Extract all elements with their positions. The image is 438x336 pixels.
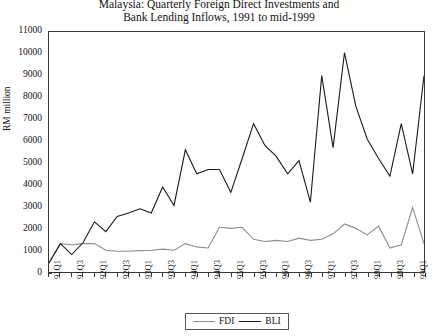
- legend-swatch-bli-icon: [239, 321, 261, 322]
- x-axis-tick-mark: [334, 273, 335, 277]
- x-axis-tick-mark: [82, 273, 83, 277]
- x-axis-tick-mark: [265, 273, 266, 277]
- chart-figure: Malaysia: Quarterly Foreign Direct Inves…: [0, 0, 438, 336]
- y-axis-tick-label: 1000: [0, 246, 42, 255]
- legend-label-fdi: FDI: [219, 316, 234, 326]
- x-axis-tick-mark: [208, 273, 209, 277]
- chart-title: Malaysia: Quarterly Foreign Direct Inves…: [0, 0, 438, 24]
- y-axis-tick-label: 4000: [0, 180, 42, 189]
- x-axis-tick-mark: [254, 273, 255, 277]
- legend-label-bli: BLI: [265, 316, 280, 326]
- y-axis-tick-label: 8000: [0, 92, 42, 101]
- y-axis-tick-label: 6000: [0, 136, 42, 145]
- x-axis-tick-mark: [242, 273, 243, 277]
- x-axis-tick-mark: [128, 273, 129, 277]
- x-axis-tick-mark: [414, 273, 415, 277]
- y-axis-tick-label: 11000: [0, 26, 42, 35]
- legend-item-bli[interactable]: BLI: [239, 316, 280, 326]
- x-axis-tick-mark: [231, 273, 232, 277]
- x-axis-tick-mark: [368, 273, 369, 277]
- legend-item-fdi[interactable]: FDI: [193, 316, 234, 326]
- chart-title-line-2: Bank Lending Inflows, 1991 to mid-1999: [0, 11, 438, 24]
- x-axis-tick-mark: [299, 273, 300, 277]
- x-axis-tick-mark: [71, 273, 72, 277]
- x-axis-tick-mark: [59, 273, 60, 277]
- y-axis-tick-label: 5000: [0, 158, 42, 167]
- y-axis-tick-label: 0: [0, 268, 42, 277]
- x-axis-tick-mark: [48, 273, 49, 277]
- x-axis-tick-mark: [185, 273, 186, 277]
- series-canvas: [49, 32, 424, 272]
- x-axis-tick-mark: [174, 273, 175, 277]
- series-line-fdi: [49, 208, 424, 263]
- x-axis-tick-mark: [322, 273, 323, 277]
- x-axis-tick-mark: [139, 273, 140, 277]
- x-axis-tick-mark: [402, 273, 403, 277]
- x-axis-tick-mark: [425, 273, 426, 277]
- legend-swatch-fdi-icon: [193, 321, 215, 322]
- y-axis-tick-label: 9000: [0, 70, 42, 79]
- y-axis-tick-label: 3000: [0, 202, 42, 211]
- x-axis-tick-mark: [94, 273, 95, 277]
- y-axis-tick-label: 10000: [0, 48, 42, 57]
- x-axis-tick-mark: [356, 273, 357, 277]
- y-axis-tick-label: 7000: [0, 114, 42, 123]
- y-axis-tick-mark: [48, 273, 52, 274]
- x-axis-tick-mark: [105, 273, 106, 277]
- y-axis-tick-label: 2000: [0, 224, 42, 233]
- plot-area: [48, 31, 425, 273]
- x-axis-tick-mark: [276, 273, 277, 277]
- x-axis-tick-mark: [117, 273, 118, 277]
- series-line-bli: [49, 53, 424, 264]
- x-axis-tick-mark: [379, 273, 380, 277]
- x-axis-tick-mark: [219, 273, 220, 277]
- chart-title-line-1: Malaysia: Quarterly Foreign Direct Inves…: [0, 0, 438, 11]
- x-axis-tick-mark: [391, 273, 392, 277]
- x-axis-tick-mark: [288, 273, 289, 277]
- x-axis-tick-mark: [311, 273, 312, 277]
- x-axis-tick-mark: [151, 273, 152, 277]
- x-axis-tick-mark: [345, 273, 346, 277]
- chart-legend: FDI BLI: [185, 313, 289, 330]
- x-axis-tick-mark: [197, 273, 198, 277]
- x-axis-tick-mark: [162, 273, 163, 277]
